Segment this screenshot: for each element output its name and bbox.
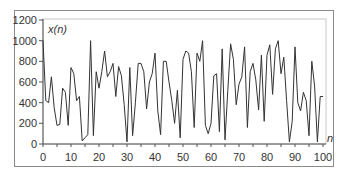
y-tick-label: 600	[19, 76, 37, 88]
x-tick-group: 0102030405060708090100	[40, 144, 332, 163]
x-tick-label: 90	[289, 151, 301, 163]
x-tick-label: 60	[205, 151, 217, 163]
line-chart: 020040060080010001200 010203040506070809…	[0, 0, 349, 176]
x-tick-label: 70	[233, 151, 245, 163]
x-tick-label: 30	[121, 151, 133, 163]
series-line-xn	[43, 41, 323, 142]
x-tick-label: 100	[314, 151, 332, 163]
plot-area-border	[43, 19, 326, 144]
y-tick-group: 020040060080010001200	[13, 14, 43, 150]
x-tick-label: 10	[65, 151, 77, 163]
x-tick-label: 50	[177, 151, 189, 163]
y-tick-label: 1200	[13, 14, 37, 26]
x-tick-label: 40	[149, 151, 161, 163]
y-tick-label: 400	[19, 97, 37, 109]
y-axis-title: x(n)	[47, 23, 67, 35]
y-tick-label: 800	[19, 55, 37, 67]
x-axis-title: n	[327, 132, 333, 144]
x-tick-label: 80	[261, 151, 273, 163]
y-tick-label: 1000	[13, 35, 37, 47]
x-tick-label: 0	[40, 151, 46, 163]
y-tick-label: 0	[31, 138, 37, 150]
x-tick-label: 20	[93, 151, 105, 163]
y-tick-label: 200	[19, 117, 37, 129]
